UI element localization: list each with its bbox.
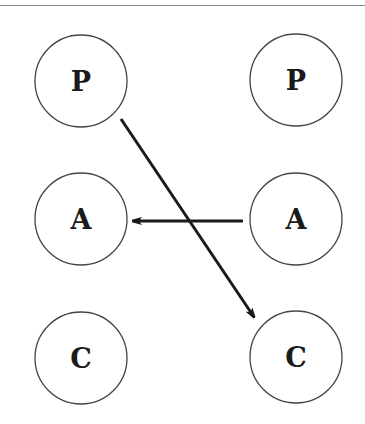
arrow-p-to-c bbox=[121, 119, 254, 317]
node-a-left: A bbox=[35, 173, 127, 265]
node-label: C bbox=[70, 343, 92, 374]
node-c-right: C bbox=[250, 311, 342, 403]
node-a-right: A bbox=[250, 173, 342, 265]
node-label: P bbox=[71, 66, 91, 97]
node-label: C bbox=[285, 342, 307, 373]
diagram-canvas: P P A A C C bbox=[0, 0, 365, 424]
node-p-left: P bbox=[35, 35, 127, 127]
node-label: A bbox=[285, 204, 308, 235]
node-label: P bbox=[286, 65, 306, 96]
node-label: A bbox=[70, 204, 93, 235]
node-c-left: C bbox=[35, 312, 127, 404]
node-p-right: P bbox=[250, 34, 342, 126]
